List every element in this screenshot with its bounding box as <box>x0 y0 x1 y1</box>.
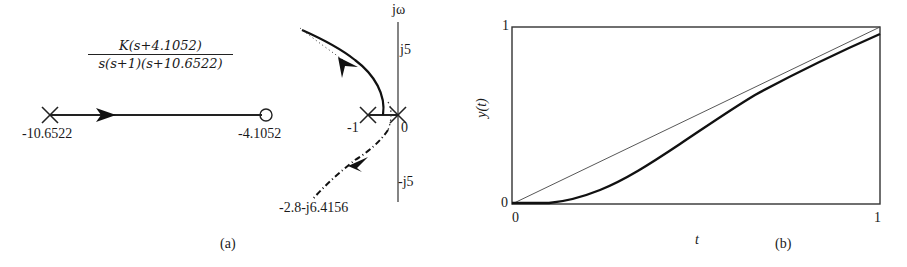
caption-b: (b) <box>775 236 791 252</box>
tick-minus-j5: -j5 <box>398 174 414 190</box>
jw-axis-label: jω <box>392 2 405 18</box>
tick-j5: j5 <box>400 42 411 58</box>
pole-label-origin: 0 <box>401 120 408 136</box>
y-axis-label: y(t) <box>474 98 490 117</box>
figure-graphics <box>0 0 907 267</box>
pole-label-10-6522: -10.6522 <box>22 126 72 142</box>
complex-root-locus <box>300 22 406 202</box>
point-label-complex: -2.8-j6.4156 <box>279 200 348 216</box>
pole-label-minus1: -1 <box>347 120 359 136</box>
x-tick-1: 1 <box>874 210 881 226</box>
y-tick-1: 1 <box>502 18 509 34</box>
step-response-plot <box>512 27 880 204</box>
y-tick-0: 0 <box>501 195 508 211</box>
x-axis-label: t <box>695 232 699 248</box>
x-tick-0: 0 <box>512 210 519 226</box>
zero-label-4-1052: -4.1052 <box>238 126 281 142</box>
real-axis-locus <box>42 107 272 123</box>
caption-a: (a) <box>220 236 236 252</box>
ramp-reference-line <box>512 27 880 204</box>
